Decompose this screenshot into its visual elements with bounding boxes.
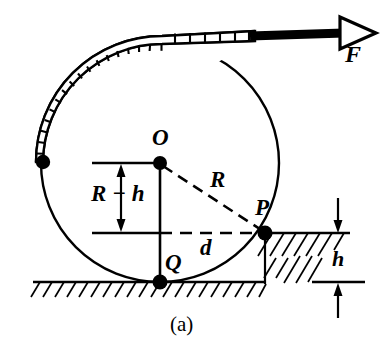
ground-lower (31, 282, 266, 297)
band-inner-edge (43, 41, 255, 162)
point-P-dot (258, 226, 273, 241)
physics-figure: O P Q R d F h R − h (a) (0, 0, 382, 350)
ground-lower-hatching (31, 282, 266, 297)
label-radius-R: R (210, 168, 225, 191)
wrapped-band (36, 31, 255, 162)
dim-h-arrowhead-down (334, 220, 343, 233)
dim-h-arrowhead-up (334, 283, 343, 296)
point-O-dot (153, 156, 167, 170)
label-distance-d: d (200, 236, 212, 259)
dim-Rh-arrowhead-up (117, 164, 126, 177)
label-force-F: F (345, 42, 361, 66)
label-point-P: P (255, 196, 269, 219)
point-Q-dot (153, 275, 168, 290)
label-R-minus-h: R − h (91, 182, 145, 205)
dim-Rh-arrowhead-down (117, 219, 126, 232)
figure-caption: (a) (170, 312, 193, 337)
figure-drawing (0, 0, 382, 350)
label-point-O: O (152, 126, 169, 149)
label-point-Q: Q (165, 251, 182, 274)
label-step-height-h: h (332, 248, 344, 270)
band-anchor-dot (36, 155, 50, 169)
force-arrow-shaft (250, 33, 344, 36)
